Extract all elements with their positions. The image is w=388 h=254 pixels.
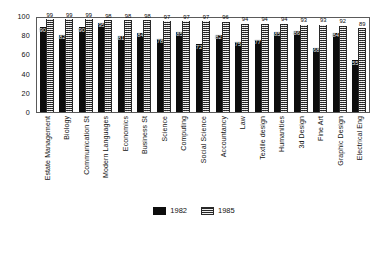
bar-group: 6893 bbox=[310, 18, 330, 112]
x-axis-label: Science bbox=[160, 116, 167, 142]
bar-group: 7897 bbox=[154, 18, 174, 112]
bar-value-label: 98 bbox=[105, 14, 111, 20]
y-tick-label: 40 bbox=[22, 71, 30, 78]
bar-group: 9598 bbox=[96, 18, 116, 112]
bar-1985: 94 bbox=[280, 24, 288, 112]
bar-1985: 89 bbox=[358, 28, 366, 112]
x-axis-label-cell: Accountancy bbox=[213, 114, 233, 198]
bar-value-label: 99 bbox=[47, 13, 53, 19]
bar-group: 8597 bbox=[174, 18, 194, 112]
x-axis-label: Fine Art bbox=[317, 116, 324, 141]
bar-group: 5589 bbox=[350, 18, 370, 112]
bar-1985: 96 bbox=[222, 22, 230, 112]
bar-group: 9099 bbox=[37, 18, 57, 112]
x-axis-labels: Estate ManagementBiologyCommunication St… bbox=[37, 114, 369, 198]
x-axis-label: Estate Management bbox=[43, 116, 50, 180]
x-axis-label-cell: Fine Art bbox=[310, 114, 330, 198]
bar-1985: 99 bbox=[85, 19, 93, 112]
legend-item-1985: 1985 bbox=[201, 207, 235, 215]
x-axis-label-cell: Humanities bbox=[271, 114, 291, 198]
bar-1985: 94 bbox=[261, 24, 269, 112]
bar-1985: 99 bbox=[65, 19, 73, 112]
x-axis-label: Law bbox=[239, 116, 246, 129]
bar-value-label: 99 bbox=[86, 13, 92, 19]
bar-value-label: 94 bbox=[242, 17, 248, 23]
x-axis-label-cell: Communication St bbox=[76, 114, 96, 198]
bar-group: 7297 bbox=[193, 18, 213, 112]
x-axis-label: Accountancy bbox=[219, 116, 226, 157]
x-axis-label-cell: Estate Management bbox=[37, 114, 57, 198]
x-axis-label-cell: Graphic Design bbox=[330, 114, 350, 198]
y-tick-label: 80 bbox=[22, 33, 30, 40]
bar-value-label: 92 bbox=[340, 19, 346, 25]
solid-black-swatch-icon bbox=[153, 207, 166, 215]
x-axis-label: Business St bbox=[141, 116, 148, 154]
bar-1985: 97 bbox=[163, 21, 171, 112]
bar-group: 7594 bbox=[232, 18, 252, 112]
x-axis-label-cell: Business St bbox=[135, 114, 155, 198]
bar-1985: 98 bbox=[104, 20, 112, 112]
y-tick-label: 100 bbox=[17, 13, 30, 20]
y-tick-label: 60 bbox=[22, 52, 30, 59]
x-axis-label: 3d Design bbox=[297, 116, 304, 148]
bar-value-label: 97 bbox=[203, 15, 209, 21]
bar-value-label: 93 bbox=[300, 18, 306, 24]
bar-1985: 97 bbox=[182, 21, 190, 112]
chart-legend: 1982 1985 bbox=[0, 207, 388, 215]
x-axis-label-cell: Science bbox=[154, 114, 174, 198]
hatched-gray-swatch-icon bbox=[201, 207, 214, 215]
bar-value-label: 94 bbox=[281, 17, 287, 23]
x-axis-label: Biology bbox=[63, 116, 70, 140]
bar-group: 8693 bbox=[291, 18, 311, 112]
bar-1985: 93 bbox=[319, 25, 327, 112]
bar-value-label: 96 bbox=[222, 15, 228, 21]
bar-1985: 98 bbox=[143, 20, 151, 112]
bar-value-label: 93 bbox=[320, 18, 326, 24]
bar-value-label: 89 bbox=[359, 22, 365, 28]
bar-value-label: 99 bbox=[66, 13, 72, 19]
bar-group: 8594 bbox=[271, 18, 291, 112]
bar-value-label: 98 bbox=[144, 14, 150, 20]
x-axis-label: Computing bbox=[180, 116, 187, 151]
x-axis-label-cell: Law bbox=[232, 114, 252, 198]
bar-value-label: 94 bbox=[261, 17, 267, 23]
x-axis-label-cell: Biology bbox=[57, 114, 77, 198]
bar-1985: 97 bbox=[202, 21, 210, 112]
bar-value-label: 97 bbox=[183, 15, 189, 21]
x-axis-label: Social Science bbox=[200, 116, 207, 163]
bar-value-label: 97 bbox=[164, 15, 170, 21]
x-axis-label-cell: Textile design bbox=[252, 114, 272, 198]
x-axis-label: Modern Languages bbox=[102, 116, 109, 178]
bar-group: 8296 bbox=[213, 18, 233, 112]
legend-label: 1982 bbox=[170, 207, 187, 215]
plot-area: 9099829990999598819884987897859772978296… bbox=[36, 17, 370, 113]
x-axis-label-cell: Economics bbox=[115, 114, 135, 198]
bar-group: 9099 bbox=[76, 18, 96, 112]
y-axis: 100 80 60 40 20 0 bbox=[0, 17, 34, 113]
bar-1985: 98 bbox=[124, 20, 132, 112]
x-axis-label-cell: Electrical Eng bbox=[350, 114, 370, 198]
bar-1985: 92 bbox=[339, 26, 347, 112]
x-axis-label: Humanities bbox=[278, 116, 285, 152]
y-tick-label: 20 bbox=[22, 90, 30, 97]
bar-group: 8299 bbox=[57, 18, 77, 112]
bar-group: 7794 bbox=[252, 18, 272, 112]
legend-label: 1985 bbox=[218, 207, 235, 215]
x-axis-label: Textile design bbox=[258, 116, 265, 160]
x-axis-label-cell: 3d Design bbox=[291, 114, 311, 198]
bar-1985: 94 bbox=[241, 24, 249, 112]
bar-chart: 100 80 60 40 20 0 9099829990999598819884… bbox=[0, 0, 388, 254]
x-axis-label: Electrical Eng bbox=[356, 116, 363, 160]
x-axis-label: Communication St bbox=[82, 116, 89, 175]
x-axis-label-cell: Social Science bbox=[193, 114, 213, 198]
x-axis-label: Graphic Design bbox=[336, 116, 343, 166]
legend-item-1982: 1982 bbox=[153, 207, 187, 215]
bar-group: 8498 bbox=[135, 18, 155, 112]
x-axis-label-cell: Modern Languages bbox=[96, 114, 116, 198]
bar-1985: 99 bbox=[46, 19, 54, 112]
x-axis-label: Economics bbox=[121, 116, 128, 151]
y-tick-label: 0 bbox=[26, 109, 30, 116]
bar-value-label: 98 bbox=[125, 14, 131, 20]
bar-group: 8492 bbox=[330, 18, 350, 112]
x-axis-label-cell: Computing bbox=[174, 114, 194, 198]
